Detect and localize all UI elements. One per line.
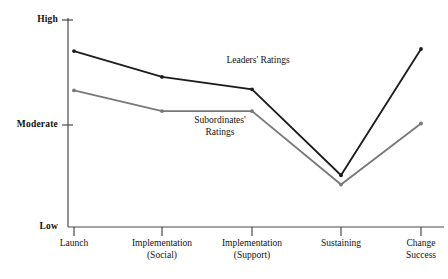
x-axis-label-line: (Support) xyxy=(192,250,312,262)
x-axis-label-line: Change xyxy=(361,238,448,250)
data-point-marker xyxy=(339,173,343,177)
x-axis-label-line: Success xyxy=(361,250,448,262)
data-point-marker xyxy=(250,87,254,91)
data-point-marker xyxy=(339,183,343,187)
annotation-line: Subordinates' xyxy=(140,115,300,127)
annotation-line: Leaders' Ratings xyxy=(178,55,338,67)
figure-container: High Moderate Low LaunchImplementation(S… xyxy=(0,0,448,279)
annotation-subordinates-ratings: Subordinates'Ratings xyxy=(140,115,300,138)
data-point-marker xyxy=(250,109,254,113)
data-point-marker xyxy=(72,88,76,92)
series-leaders xyxy=(72,47,423,177)
y-axis-label-moderate: Moderate xyxy=(0,119,58,129)
data-point-marker xyxy=(72,49,76,53)
data-point-marker xyxy=(419,122,423,126)
y-axis-label-high: High xyxy=(4,14,58,24)
data-point-marker xyxy=(160,109,164,113)
y-axis-label-low: Low xyxy=(4,221,58,231)
annotation-leaders-ratings: Leaders' Ratings xyxy=(178,55,338,67)
figure-caption xyxy=(6,268,442,279)
series-line xyxy=(74,49,421,175)
annotation-line: Ratings xyxy=(140,127,300,139)
x-axis-label-change-success: ChangeSuccess xyxy=(361,238,448,261)
data-point-marker xyxy=(160,75,164,79)
data-point-marker xyxy=(419,47,423,51)
